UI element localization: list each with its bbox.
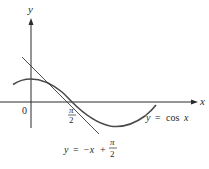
svg-text:cos: cos [166, 112, 179, 123]
origin-label: 0 [22, 105, 27, 116]
x-axis-arrow-icon [191, 100, 198, 105]
cosine-tangent-diagram: y x 0 π 2 y = cos x y = −x + π 2 [0, 0, 209, 169]
tangent-line [22, 57, 99, 134]
tangent-line-label: y = −x + π 2 [63, 137, 117, 159]
svg-text:y: y [145, 112, 151, 123]
svg-text:=: = [155, 112, 161, 123]
y-axis-label: y [27, 3, 33, 15]
svg-text:−x: −x [83, 144, 95, 155]
svg-text:y: y [63, 144, 69, 155]
svg-text:π: π [110, 137, 115, 147]
svg-text:x: x [183, 112, 189, 123]
svg-text:2: 2 [110, 149, 115, 159]
svg-text:+: + [100, 144, 106, 155]
svg-text:=: = [73, 144, 79, 155]
tick-label-denominator: 2 [69, 115, 74, 125]
x-axis-label: x [199, 95, 205, 107]
y-axis-arrow-icon [29, 18, 34, 25]
cosine-curve-label: y = cos x [145, 112, 189, 123]
